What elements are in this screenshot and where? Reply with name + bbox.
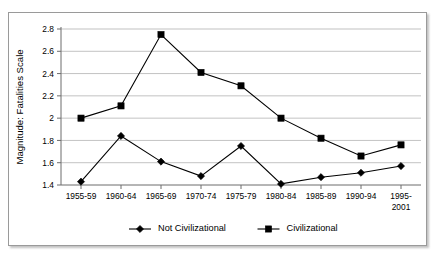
x-tick-label-1965-69: 1965-69 (146, 191, 177, 201)
x-tick-label-1960-64: 1960-64 (106, 191, 137, 201)
legend-marker-not-civilizational (136, 225, 143, 232)
y-tick-label-1.4: 1.4 (42, 180, 54, 190)
data-point-civilizational-1960-64 (118, 103, 124, 109)
y-tick-label-2: 2 (49, 113, 54, 123)
series-line-civilizational (81, 35, 401, 156)
data-point-civilizational-1970-74 (198, 69, 204, 75)
x-tick-label-1975-79: 1975-79 (226, 191, 257, 201)
legend-label-not-civilizational: Not Civilizational (158, 223, 226, 233)
data-point-not-civilizational-1985-89 (317, 174, 324, 181)
data-point-civilizational-1985-89 (318, 135, 324, 141)
x-tick-label-1995-2001: 1995- (390, 191, 412, 201)
legend-marker-civilizational (265, 226, 271, 232)
data-point-civilizational-1965-69 (158, 31, 164, 37)
y-tick-label-1.8: 1.8 (42, 136, 54, 146)
y-axis-title: Magnitude: Fatalities Scale (14, 49, 25, 164)
data-point-not-civilizational-1965-69 (157, 158, 164, 165)
x-tick-label-1955-59: 1955-59 (66, 191, 97, 201)
data-point-civilizational-1980-84 (278, 115, 284, 121)
y-tick-label-2.8: 2.8 (42, 24, 54, 34)
data-point-not-civilizational-1995-2001 (397, 162, 404, 169)
chart-figure: 1.41.61.822.22.42.62.81955-591960-641965… (8, 12, 427, 246)
x-tick-label-1990-94: 1990-94 (346, 191, 377, 201)
data-point-civilizational-1975-79 (238, 83, 244, 89)
x-tick-label-1995-2001: 2001 (392, 202, 411, 212)
y-tick-label-1.6: 1.6 (42, 158, 54, 168)
data-point-civilizational-1955-59 (78, 115, 84, 121)
y-tick-label-2.2: 2.2 (42, 91, 54, 101)
x-tick-label-1970-74: 1970-74 (186, 191, 217, 201)
legend-label-civilizational: Civilizational (287, 223, 338, 233)
data-point-civilizational-1990-94 (358, 153, 364, 159)
data-point-civilizational-1995-2001 (398, 142, 404, 148)
data-point-not-civilizational-1990-94 (357, 169, 364, 176)
y-tick-label-2.4: 2.4 (42, 69, 54, 79)
x-tick-label-1980-84: 1980-84 (266, 191, 297, 201)
line-chart-plot: 1.41.61.822.22.42.62.81955-591960-641965… (9, 13, 426, 245)
y-tick-label-2.6: 2.6 (42, 46, 54, 56)
x-tick-label-1985-89: 1985-89 (306, 191, 337, 201)
